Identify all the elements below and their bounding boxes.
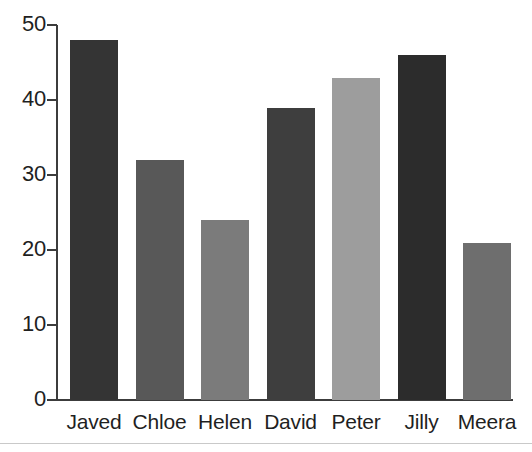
bar-helen[interactable] <box>201 220 249 400</box>
bar-meera[interactable] <box>463 243 511 401</box>
bar-group <box>136 25 184 400</box>
y-axis-tick-50 <box>47 24 57 26</box>
bar-group <box>70 25 118 400</box>
bar-group <box>267 25 315 400</box>
y-axis-tick-0 <box>47 399 57 401</box>
y-axis-tick-label: 0 <box>0 388 46 410</box>
y-axis-tick-label: 20 <box>0 238 46 260</box>
y-axis-tick-label: 10 <box>0 313 46 335</box>
page-divider-rule <box>0 443 532 444</box>
bar-javed[interactable] <box>70 40 118 400</box>
y-axis-tick-30 <box>47 174 57 176</box>
y-axis-tick-20 <box>47 249 57 251</box>
y-axis-tick-label: 40 <box>0 88 46 110</box>
x-axis-label-meera: Meera <box>444 409 530 435</box>
bar-group <box>332 25 380 400</box>
bar-group <box>398 25 446 400</box>
bar-peter[interactable] <box>332 78 380 401</box>
y-axis-tick-10 <box>47 324 57 326</box>
bar-jilly[interactable] <box>398 55 446 400</box>
bar-group <box>201 25 249 400</box>
plot-area <box>57 25 513 400</box>
y-axis-tick-40 <box>47 99 57 101</box>
bar-chloe[interactable] <box>136 160 184 400</box>
bar-group <box>463 25 511 400</box>
y-axis-tick-labels: 01020304050 <box>0 0 46 452</box>
bar-chart-figure: 01020304050 JavedChloeHelenDavidPeterJil… <box>0 0 532 452</box>
y-axis-tick-label: 30 <box>0 163 46 185</box>
y-axis-tick-label: 50 <box>0 13 46 35</box>
bar-david[interactable] <box>267 108 315 401</box>
x-axis-tick-labels: JavedChloeHelenDavidPeterJillyMeera <box>0 409 532 439</box>
